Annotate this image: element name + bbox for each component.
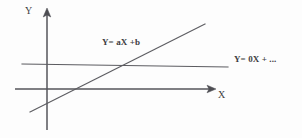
y-axis-label: Y [25,6,32,16]
diagram-canvas [0,0,302,138]
sloped-line-equation-label: Y= aX +b [102,38,140,47]
x-axis-group [15,85,216,93]
y-axis-group [43,8,51,130]
constant-line-equation-label: Y= 0X + ... [234,55,276,64]
linear-function-diagram: Y X Y= aX +b Y= 0X + ... [0,0,302,138]
x-axis-label: X [218,90,225,100]
